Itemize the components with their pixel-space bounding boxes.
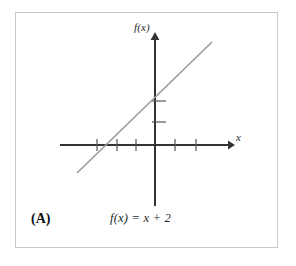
y-axis-label: f(x) (134, 21, 150, 33)
figure-panel: f(x) x f(x) = x + 2 (A) (0, 0, 296, 266)
panel-label: (A) (31, 211, 50, 227)
x-axis-label: x (236, 131, 241, 143)
equation-caption: f(x) = x + 2 (110, 211, 171, 226)
